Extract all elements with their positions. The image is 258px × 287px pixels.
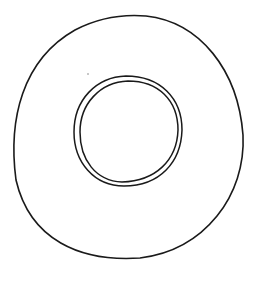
outer-ring: [14, 16, 243, 259]
speck-mark: [87, 73, 88, 74]
sketch-canvas: [0, 0, 258, 287]
inner-ring-inner-circle: [80, 81, 178, 182]
inner-ring-outer-circle: [74, 76, 182, 186]
ring-drawing: [0, 0, 258, 287]
